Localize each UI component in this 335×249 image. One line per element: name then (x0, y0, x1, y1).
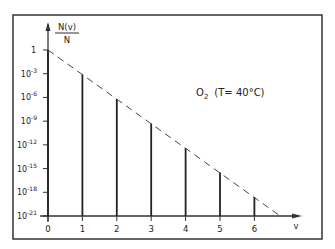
x-axis-label: v (293, 221, 298, 231)
x-tick-label: 1 (80, 224, 85, 234)
y-axis-arrow-icon (46, 22, 51, 31)
axes (40, 22, 302, 222)
chart-frame (13, 15, 322, 239)
y-tick-label: 10-21 (17, 209, 37, 221)
x-tick-label: 6 (252, 224, 257, 234)
x-tick-label: 0 (45, 224, 50, 234)
boltzmann-distribution-chart: 110-310-610-910-1210-1510-1810-210123456… (0, 0, 335, 249)
y-tick-label: 10-3 (21, 67, 37, 79)
y-tick-label: 10-12 (17, 138, 37, 150)
y-tick-label: 1 (31, 46, 36, 55)
x-tick-label: 4 (183, 224, 188, 234)
x-tick-label: 2 (114, 224, 119, 234)
bars (48, 50, 254, 216)
x-tick-label: 5 (217, 224, 222, 234)
species-annotation: O2(T= 40°C) (196, 87, 265, 101)
y-tick-label: 10-18 (17, 185, 37, 197)
y-tick-label: 10-9 (21, 114, 37, 126)
y-axis-label-numerator: N(v) (58, 22, 76, 32)
y-axis-label-denominator: N (64, 35, 70, 45)
y-tick-label: 10-6 (21, 90, 37, 102)
x-axis-arrow-icon (292, 214, 302, 219)
x-tick-label: 3 (148, 224, 153, 234)
y-tick-label: 10-15 (17, 162, 37, 174)
